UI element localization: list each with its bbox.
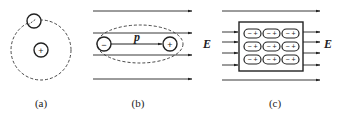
dipole-signs: − + xyxy=(247,30,257,37)
positive-sign: + xyxy=(167,40,172,50)
dipole-grid: − + − + − + − + − + − + − + − + − + xyxy=(244,29,299,64)
dipole-signs: − + xyxy=(247,56,257,63)
caption-c: (c) xyxy=(269,97,282,110)
dipole-label: p xyxy=(133,30,140,44)
negative-sign: − xyxy=(101,40,106,50)
dipole-signs: − + xyxy=(285,56,295,63)
nucleus-sign: + xyxy=(38,46,43,56)
panel-b: − + p E (b) xyxy=(93,11,211,110)
panel-a: + (a) xyxy=(11,14,71,110)
field-label-c: E xyxy=(323,37,332,51)
caption-a: (a) xyxy=(35,97,48,110)
field-label-b: E xyxy=(202,37,211,51)
caption-b: (b) xyxy=(132,97,145,110)
dipole-signs: − + xyxy=(266,56,276,63)
dipole-signs: − + xyxy=(285,30,295,37)
dipole-signs: − + xyxy=(266,43,276,50)
dipole-signs: − + xyxy=(285,43,295,50)
dipole-signs: − + xyxy=(247,43,257,50)
dielectric-polarization-diagram: + (a) − + p E (b) − + xyxy=(0,0,339,121)
dipole-signs: − + xyxy=(266,30,276,37)
panel-c: − + − + − + − + − + − + − + − + − + E (c… xyxy=(222,11,332,110)
